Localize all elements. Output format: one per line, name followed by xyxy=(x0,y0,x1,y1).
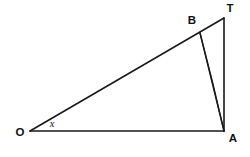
vertex-label-T: T xyxy=(226,2,233,14)
vertex-label-A: A xyxy=(229,132,237,144)
segment-O-to-T xyxy=(30,18,224,131)
vertex-label-B: B xyxy=(188,14,196,26)
geometry-canvas: O A T B x xyxy=(0,0,250,157)
geometry-diagram: O A T B x xyxy=(0,0,250,157)
vertex-label-O: O xyxy=(16,126,25,138)
arc-B-to-A xyxy=(200,33,224,131)
angle-label-x: x xyxy=(49,118,55,129)
